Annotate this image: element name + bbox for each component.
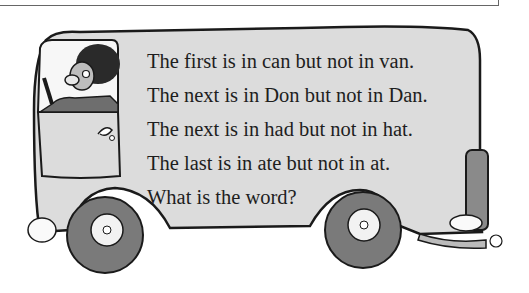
rear-bumper-puff-icon (450, 215, 482, 231)
riddle-text: The first is in can but not in van. The … (147, 44, 477, 214)
driver-nose-icon (65, 75, 79, 85)
exhaust-smoke-icon (490, 235, 502, 247)
exhaust-pipe-icon (418, 234, 486, 248)
riddle-line-4: The last is in ate but not in at. (147, 146, 477, 180)
riddle-line-1: The first is in can but not in van. (147, 44, 477, 78)
front-wheel-icon (67, 197, 143, 273)
riddle-line-2: The next is in Don but not in Dan. (147, 78, 477, 112)
front-bumper-puff-icon (28, 218, 56, 242)
riddle-question: What is the word? (147, 180, 477, 214)
riddle-line-3: The next is in had but not in hat. (147, 112, 477, 146)
driver-eye-icon (83, 71, 90, 78)
